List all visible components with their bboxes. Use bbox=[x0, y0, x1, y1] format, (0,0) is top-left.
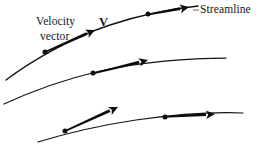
streamline-label: Streamline bbox=[200, 4, 251, 16]
velocity-label: Velocity bbox=[36, 16, 75, 28]
streamline-bottom-curve bbox=[38, 113, 243, 142]
vector-shaft bbox=[91, 61, 140, 75]
arrowhead-icon bbox=[179, 5, 189, 14]
vector-shaft bbox=[146, 7, 181, 16]
streamline-middle-curve bbox=[4, 58, 226, 104]
velocity-vector-bottom-right bbox=[164, 110, 215, 119]
streamline-point-marker bbox=[163, 115, 168, 120]
streamline-point-marker bbox=[43, 50, 48, 55]
streamline-figure: Velocity vector V Streamline bbox=[0, 0, 269, 149]
velocity-vector-top-right bbox=[146, 5, 189, 16]
streamline-bottom-group bbox=[38, 107, 243, 142]
streamline-middle-group bbox=[4, 58, 226, 104]
streamline-point-marker bbox=[146, 12, 151, 17]
arrowhead-icon bbox=[138, 58, 148, 66]
velocity-vector-middle bbox=[91, 58, 148, 75]
arrowhead-icon bbox=[206, 110, 215, 119]
velocity-symbol-label: V bbox=[99, 16, 108, 29]
vector-label: vector bbox=[40, 31, 69, 43]
streamline-point-marker bbox=[91, 71, 96, 76]
streamline-point-marker bbox=[63, 129, 68, 134]
